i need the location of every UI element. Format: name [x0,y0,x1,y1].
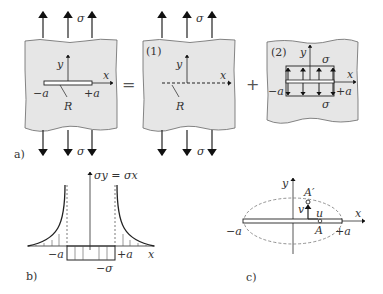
stress-bottom-label: σ [197,145,205,158]
crack-right-label: +a [336,85,352,98]
left-label: −a [226,225,242,238]
y-axis-label: σy = σx [94,169,138,182]
v-label: v [298,203,305,216]
stress-top-label: σ [196,12,204,25]
point-A-label: A [314,224,323,237]
plate-tag: (1) [146,45,162,58]
panel-c-crack-opening: y x A′ v u A −a +a [226,177,365,254]
crack [44,81,92,85]
stress-top-label: σ [77,12,85,25]
plate-1: σ σ (1) y x R [143,12,235,158]
y-axis-label: y [281,177,289,190]
crack-superposition-diagram: σ σ y x −a +a R = σ σ (1) y x R [0,0,383,294]
crack-left-label: −a [268,85,284,98]
equals-sign: = [122,75,135,94]
y-axis-label: y [56,58,64,71]
neg-sigma-label: −σ [96,262,113,275]
plate-main: σ σ y x −a +a R [25,12,117,158]
x-axis-label: x [148,248,155,261]
panel-a-label: a) [14,148,25,161]
panel-c-label: c) [246,271,256,284]
panel-b-stress-plot: σy = σx −a +a x −σ [27,169,155,275]
u-label: u [316,207,323,220]
crack-right-label: +a [84,87,100,100]
right-label: +a [335,225,351,238]
stress-bottom-label: σ [77,145,85,158]
panel-b-label: b) [26,270,37,283]
crack [243,219,342,223]
y-axis-label: y [175,58,183,71]
crack-left-label: −a [33,87,49,100]
stress-bottom-label: σ [322,98,330,111]
plate-tag: (2) [271,46,287,59]
x-axis-label: x [220,69,227,82]
x-axis-label: x [355,207,362,220]
x-axis-label: x [103,69,110,82]
plus-sign: + [246,75,259,94]
point-A-prime-label: A′ [303,186,315,199]
crack-R-label: R [63,100,72,113]
crack-R-label: R [175,100,184,113]
plate-2: (2) y σ x −a +a σ [267,39,358,123]
left-label: −a [48,248,64,261]
stress-top-label: σ [322,53,330,66]
x-axis-label: x [347,68,354,81]
right-label: +a [117,248,133,261]
y-axis-label: y [299,46,307,59]
